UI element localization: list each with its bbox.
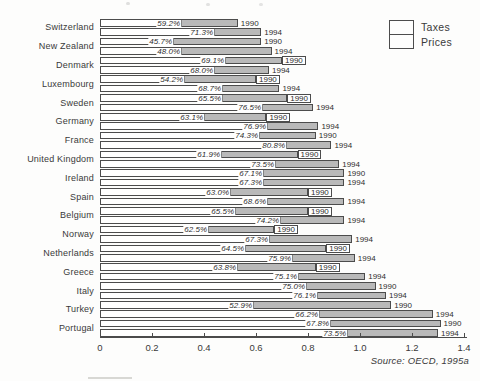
- year-label: 1990: [274, 225, 298, 234]
- tax-pct-label: 67.1%: [238, 170, 263, 178]
- bar-germany-1994: [100, 122, 318, 130]
- x-axis-tick-label: 0.8: [294, 342, 322, 353]
- bar-portugal-1990: [100, 320, 441, 328]
- bar-new-zealand-1994: [100, 47, 272, 55]
- prices-swatch: [389, 34, 414, 49]
- bar-denmark-1994: [100, 66, 269, 74]
- bar-france-1994: [100, 141, 331, 149]
- prices-segment: [262, 105, 312, 111]
- prices-segment: [267, 199, 343, 205]
- country-label-united-kingdom: United Kingdom: [0, 154, 94, 164]
- year-label: 1994: [389, 292, 407, 300]
- year-label: 1994: [368, 273, 386, 281]
- legend-label-prices: Prices: [421, 35, 452, 50]
- bar-italy-1990: [100, 282, 376, 290]
- tax-pct-label: 54.2%: [159, 76, 184, 84]
- tax-pct-label: 76.1%: [292, 292, 317, 300]
- prices-segment: [225, 58, 281, 64]
- bar-sweden-1990: [100, 94, 287, 102]
- bar-greece-1994: [100, 273, 365, 281]
- bar-united-kingdom-1994: [100, 160, 339, 168]
- country-label-turkey: Turkey: [0, 304, 94, 314]
- bar-denmark-1990: [100, 57, 282, 65]
- country-label-italy: Italy: [0, 286, 94, 296]
- year-label: 1994: [316, 104, 334, 112]
- bar-greece-1990: [100, 263, 316, 271]
- year-label: 1994: [272, 67, 290, 75]
- tax-pct-label: 45.7%: [148, 38, 173, 46]
- bar-sweden-1994: [100, 104, 313, 112]
- year-label: 1994: [347, 217, 365, 225]
- year-label: 1990: [394, 302, 412, 310]
- prices-segment: [221, 152, 297, 158]
- year-label: 1990: [379, 283, 397, 291]
- tax-pct-label: 73.5%: [250, 161, 275, 169]
- bar-netherlands-1990: [100, 245, 326, 253]
- year-label: 1994: [342, 161, 360, 169]
- year-label: 1990: [298, 150, 322, 159]
- prices-segment: [298, 274, 364, 280]
- year-label: 1994: [282, 85, 300, 93]
- bar-france-1990: [100, 132, 316, 140]
- tax-pct-label: 52.9%: [228, 302, 253, 310]
- tax-pct-label: 67.3%: [244, 236, 269, 244]
- x-axis-tick-label: 1.2: [398, 342, 426, 353]
- bar-norway-1994: [100, 235, 352, 243]
- year-label: 1990: [287, 94, 311, 103]
- taxes-swatch: [389, 20, 414, 35]
- country-label-ireland: Ireland: [0, 173, 94, 183]
- year-label: 1990: [319, 132, 337, 140]
- year-label: 1990: [308, 207, 332, 216]
- source-note: Source: OECD, 1995a: [371, 355, 469, 366]
- tax-pct-label: 68.0%: [189, 67, 214, 75]
- prices-segment: [269, 236, 351, 242]
- prices-segment: [181, 20, 237, 26]
- x-axis-tick: [308, 333, 309, 337]
- bar-new-zealand-1990: [100, 38, 261, 46]
- prices-segment: [263, 170, 343, 176]
- year-label: 1990: [282, 56, 306, 65]
- year-label: 1990: [256, 75, 280, 84]
- prices-segment: [214, 29, 260, 35]
- prices-segment: [214, 67, 268, 73]
- tax-pct-label: 76.5%: [237, 104, 262, 112]
- prices-segment: [222, 86, 278, 92]
- legend: Taxes Prices: [389, 20, 452, 50]
- tax-pct-label: 66.2%: [294, 311, 319, 319]
- prices-segment: [286, 142, 330, 148]
- year-label: 1994: [321, 123, 339, 131]
- country-label-france: France: [0, 135, 94, 145]
- prices-segment: [306, 283, 375, 289]
- tax-pct-label: 59.2%: [156, 20, 181, 28]
- year-label: 1994: [264, 29, 282, 37]
- tax-pct-label: 63.0%: [205, 189, 230, 197]
- tax-pct-label: 74.3%: [234, 132, 259, 140]
- country-label-sweden: Sweden: [0, 98, 94, 108]
- prices-segment: [230, 189, 307, 195]
- prices-segment: [280, 217, 343, 223]
- tax-pct-label: 75.9%: [267, 255, 292, 263]
- bar-spain-1994: [100, 198, 344, 206]
- prices-segment: [263, 180, 343, 186]
- prices-segment: [330, 321, 440, 327]
- bar-belgium-1994: [100, 216, 344, 224]
- year-label: 1990: [264, 38, 282, 46]
- country-label-switzerland: Switzerland: [0, 22, 94, 32]
- prices-segment: [237, 264, 315, 270]
- bar-switzerland-1994: [100, 28, 261, 36]
- x-axis-tick-label: 0.4: [190, 342, 218, 353]
- tax-pct-label: 65.5%: [197, 95, 222, 103]
- x-axis-tick-label: 1.4: [450, 342, 478, 353]
- prices-segment: [173, 39, 260, 45]
- x-axis-tick-label: 1.0: [346, 342, 374, 353]
- tax-pct-label: 75.0%: [281, 283, 306, 291]
- country-label-denmark: Denmark: [0, 60, 94, 70]
- x-axis-tick: [412, 333, 413, 337]
- bar-spain-1990: [100, 188, 308, 196]
- year-label: 1990: [266, 113, 290, 122]
- prices-segment: [235, 208, 307, 214]
- country-label-luxembourg: Luxembourg: [0, 79, 94, 89]
- country-label-belgium: Belgium: [0, 210, 94, 220]
- tax-pct-label: 75.1%: [273, 273, 298, 281]
- year-label: 1994: [275, 48, 293, 56]
